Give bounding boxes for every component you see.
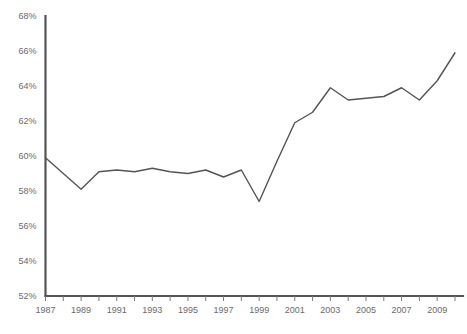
plot-area <box>0 0 467 334</box>
line-chart: 52%54%56%58%60%62%64%66%68% 198719891991… <box>0 0 467 334</box>
data-line <box>46 53 456 202</box>
data-series-group <box>46 53 456 202</box>
axis-lines <box>46 16 464 296</box>
